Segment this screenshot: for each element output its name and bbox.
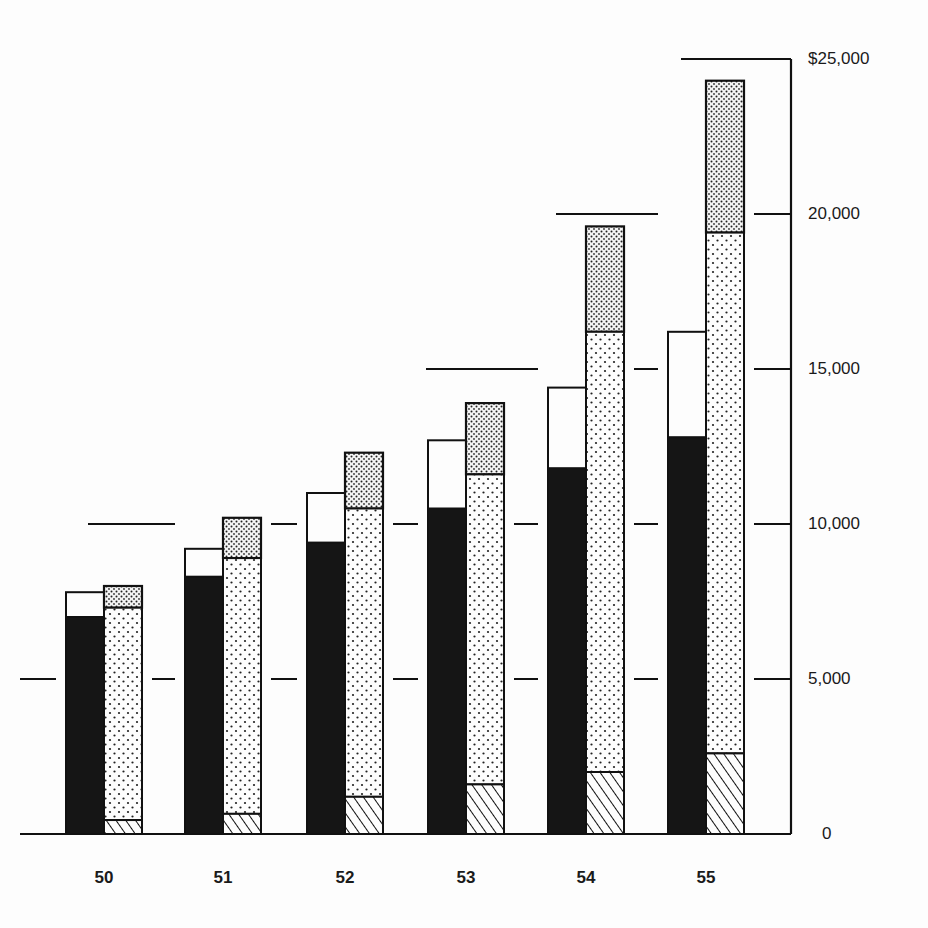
x-tick-label: 53 xyxy=(457,868,476,888)
y-tick-label: 20,000 xyxy=(808,204,860,224)
bar-light-dotted-segment xyxy=(586,332,624,772)
y-tick-label: 15,000 xyxy=(808,359,860,379)
bar-black-segment xyxy=(428,509,466,835)
bar-black-segment xyxy=(66,617,104,834)
bar-dense-dotted-segment xyxy=(345,453,383,509)
bar-light-dotted-segment xyxy=(466,474,504,784)
x-tick-label: 50 xyxy=(95,868,114,888)
bar-light-dotted-segment xyxy=(706,233,744,754)
bar-black-segment xyxy=(307,543,345,834)
bar-black-segment xyxy=(668,437,706,834)
bar-hatched-segment xyxy=(223,814,261,834)
bar-black-segment xyxy=(548,468,586,834)
bar-light-dotted-segment xyxy=(104,608,142,820)
bar-hatched-segment xyxy=(586,772,624,834)
bar-dense-dotted-segment xyxy=(586,226,624,331)
bar-dense-dotted-segment xyxy=(706,81,744,233)
bar-light-dotted-segment xyxy=(223,558,261,814)
y-tick-label: $25,000 xyxy=(808,49,869,69)
bar-dense-dotted-segment xyxy=(104,586,142,608)
x-tick-label: 54 xyxy=(577,868,596,888)
bar-hatched-segment xyxy=(104,820,142,834)
y-tick-label: 0 xyxy=(822,824,831,844)
bar-hatched-segment xyxy=(345,797,383,834)
y-tick-label: 5,000 xyxy=(808,669,851,689)
bars xyxy=(56,79,754,834)
x-tick-label: 55 xyxy=(697,868,716,888)
bar-dense-dotted-segment xyxy=(466,403,504,474)
stacked-bar-chart xyxy=(0,0,928,928)
x-tick-label: 51 xyxy=(214,868,233,888)
bar-light-dotted-segment xyxy=(345,509,383,797)
bar-hatched-segment xyxy=(466,784,504,834)
bar-dense-dotted-segment xyxy=(223,518,261,558)
bar-black-segment xyxy=(185,577,223,834)
bar-hatched-segment xyxy=(706,753,744,834)
y-tick-label: 10,000 xyxy=(808,514,860,534)
x-tick-label: 52 xyxy=(336,868,355,888)
